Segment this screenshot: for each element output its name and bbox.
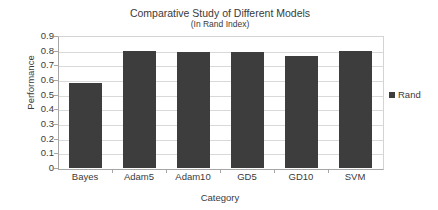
y-tick-label: 0.6 — [28, 75, 54, 85]
legend-swatch-rand — [389, 92, 395, 98]
x-tick-label: GD10 — [274, 171, 328, 183]
bar — [123, 51, 156, 168]
y-tick-label: 0.1 — [28, 148, 54, 158]
y-tick-label: 0.9 — [28, 31, 54, 41]
legend: Rand — [389, 89, 421, 100]
y-tick-label: 0 — [28, 163, 54, 173]
y-tick-label: 0.4 — [28, 104, 54, 114]
x-tick-mark — [112, 169, 113, 173]
x-tick-label: Adam10 — [166, 171, 220, 183]
bar — [285, 56, 318, 168]
x-tick-mark — [166, 169, 167, 173]
y-tick-label: 0.7 — [28, 60, 54, 70]
x-tick-mark — [328, 169, 329, 173]
x-tick-mark — [220, 169, 221, 173]
y-tick-mark — [54, 168, 58, 169]
bar — [69, 83, 102, 168]
y-axis-ticks: 0.90.80.70.60.50.40.30.20.10 — [0, 36, 54, 168]
y-tick-label: 0.3 — [28, 119, 54, 129]
y-tick-label: 0.2 — [28, 134, 54, 144]
x-tick-mark — [274, 169, 275, 173]
bar — [231, 52, 264, 168]
x-axis-ticks: BayesAdam5Adam10GD5GD10SVM — [58, 171, 382, 187]
y-tick-label: 0.5 — [28, 90, 54, 100]
bar-chart: Comparative Study of Different Models (I… — [0, 0, 438, 210]
y-tick-label: 0.8 — [28, 46, 54, 56]
x-axis-title: Category — [58, 192, 382, 203]
x-tick-label: Bayes — [58, 171, 112, 183]
bar — [177, 52, 210, 168]
bars-layer — [58, 36, 382, 168]
x-tick-label: Adam5 — [112, 171, 166, 183]
chart-title: Comparative Study of Different Models — [58, 7, 382, 19]
x-tick-label: SVM — [328, 171, 382, 183]
chart-subtitle: (In Rand Index) — [58, 19, 382, 30]
x-tick-label: GD5 — [220, 171, 274, 183]
bar — [339, 51, 372, 168]
legend-label-rand: Rand — [398, 89, 421, 100]
